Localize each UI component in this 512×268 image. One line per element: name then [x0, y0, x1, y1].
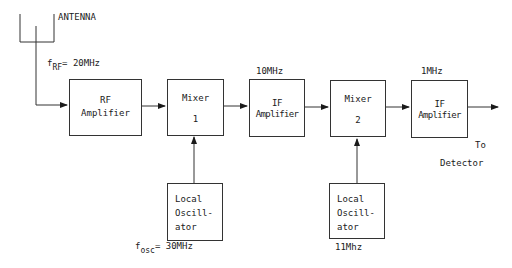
- if2-frequency-label: 1MHz: [421, 66, 443, 77]
- if1-frequency-label: 10MHz: [256, 66, 283, 77]
- mixer2-line2: 2: [331, 114, 385, 127]
- lo2-line1: Local: [337, 192, 364, 206]
- if-amplifier-1-block: IF Amplifier: [249, 79, 305, 137]
- detector-label: Detector: [440, 158, 483, 169]
- osc-freq-subscript: osc: [140, 246, 154, 255]
- lo1-line1: Local: [175, 192, 202, 206]
- mixer-2-block: Mixer 2: [330, 80, 386, 137]
- if2-line2: Amplifier: [412, 109, 467, 122]
- mixer1-line1: Mixer: [168, 92, 223, 105]
- local-oscillator-1-block: Local Oscill- ator: [167, 183, 223, 241]
- rf-amp-line2: Amplifier: [70, 107, 141, 120]
- mixer2-line1: Mixer: [331, 93, 385, 106]
- to-label: To: [475, 140, 486, 151]
- rf-frequency-label: fRF= 20MHz: [47, 58, 100, 73]
- osc-frequency-label: fosc= 30MHz: [135, 241, 193, 256]
- antenna-label: ANTENNA: [58, 12, 96, 23]
- rf-amplifier-block: RF Amplifier: [69, 79, 142, 136]
- mixer-1-block: Mixer 1: [167, 79, 224, 136]
- if1-line2: Amplifier: [250, 108, 304, 121]
- rf-freq-value: = 20MHz: [62, 58, 100, 68]
- mixer1-line2: 1: [168, 113, 223, 126]
- lo1-line3: ator: [175, 220, 197, 234]
- osc-freq-value: = 30MHz: [155, 241, 193, 251]
- lo2-line2: Oscill-: [337, 206, 375, 220]
- rf-amp-line1: RF: [70, 94, 141, 107]
- rf-freq-subscript: RF: [52, 63, 62, 72]
- if-amplifier-2-block: IF Amplifier: [411, 80, 468, 138]
- local-oscillator-2-block: Local Oscill- ator: [329, 183, 385, 239]
- lo1-line2: Oscill-: [175, 206, 213, 220]
- lo2-frequency-label: 11Mhz: [335, 242, 362, 253]
- lo2-line3: ator: [337, 220, 359, 234]
